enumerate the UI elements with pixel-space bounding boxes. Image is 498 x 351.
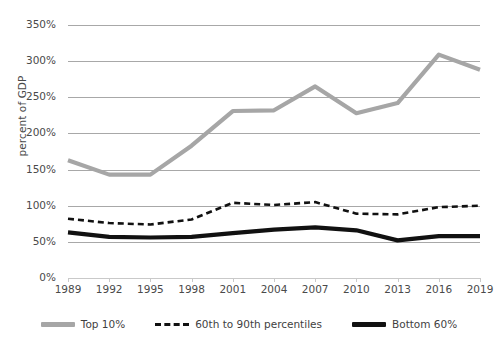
x-axis-tick [398,278,399,282]
y-axis-tick-label: 300% [0,54,56,66]
x-axis-tick-label: 2019 [458,283,498,295]
x-axis-tick-label: 1989 [46,283,90,295]
y-axis-tick-label: 350% [0,18,56,30]
x-axis-tick-label: 2013 [376,283,420,295]
x-axis-tick [150,278,151,282]
x-axis-tick-label: 2004 [252,283,296,295]
legend-label-bottom60: Bottom 60% [392,318,457,330]
x-axis-tick [439,278,440,282]
legend-label-top10: Top 10% [81,318,125,330]
x-axis-tick-label: 2001 [211,283,255,295]
x-axis-tick [274,278,275,282]
series-lines [68,25,480,278]
series-line-bottom-60 [68,227,480,240]
series-line-60th-to-90th-percentiles [68,202,480,224]
y-axis-tick-label: 50% [0,235,56,247]
x-axis-tick [315,278,316,282]
x-axis-tick-label: 1998 [170,283,214,295]
y-axis-tick-label: 0% [0,271,56,283]
x-axis-tick-label: 2010 [334,283,378,295]
x-axis-tick-label: 1995 [128,283,172,295]
chart-container: percent of GDP 0%50%100%150%200%250%300%… [0,0,498,351]
y-axis-tick-label: 200% [0,126,56,138]
y-axis-tick-label: 150% [0,163,56,175]
legend-item-60th-to-90th: 60th to 90th percentiles [155,318,322,330]
x-axis-tick [192,278,193,282]
legend-swatch-top10-icon [41,322,75,327]
x-axis-tick-label: 1992 [87,283,131,295]
y-axis-title: percent of GDP [16,56,28,176]
y-axis-tick-label: 250% [0,90,56,102]
legend-item-top10: Top 10% [41,318,125,330]
x-axis-tick-label: 2007 [293,283,337,295]
series-line-top-10 [68,55,480,175]
legend-label-60th-to-90th: 60th to 90th percentiles [195,318,322,330]
x-axis-tick [480,278,481,282]
legend-swatch-60th-to-90th-icon [155,323,189,326]
legend-swatch-bottom60-icon [352,322,386,327]
chart-legend: Top 10% 60th to 90th percentiles Bottom … [0,318,498,330]
x-axis-tick-label: 2016 [417,283,461,295]
y-axis-tick-label: 100% [0,199,56,211]
legend-item-bottom60: Bottom 60% [352,318,457,330]
x-axis-tick [109,278,110,282]
x-axis-tick [68,278,69,282]
x-axis-tick [356,278,357,282]
x-axis-tick [233,278,234,282]
